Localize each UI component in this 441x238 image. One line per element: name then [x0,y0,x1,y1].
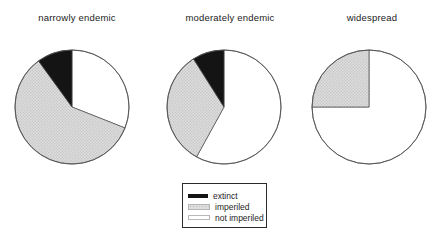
legend-swatch-extinct-icon [188,194,208,198]
legend-item-not-imperiled: not imperiled [188,212,266,223]
legend-swatch-imperiled-icon [188,204,210,210]
chart-title-narrowly-endemic: narrowly endemic [0,12,157,23]
chart-title-widespread: widespread [292,12,441,23]
legend-label-extinct: extinct [213,191,238,201]
chart-title-moderately-endemic: moderately endemic [150,12,310,23]
pie-narrowly-endemic [12,47,132,167]
pie-widespread [309,47,429,167]
pie-moderately-endemic [164,47,284,167]
legend-box: extinct imperiled not imperiled [182,183,267,228]
legend-item-imperiled: imperiled [188,201,266,212]
pie-chart-figure: narrowly endemic moderately endemic wide… [0,0,441,238]
legend-swatch-not-imperiled-icon [188,215,210,220]
legend-label-imperiled: imperiled [215,202,250,212]
legend-item-extinct: extinct [188,190,266,201]
pie-slice-imperiled [312,50,369,107]
legend-label-not-imperiled: not imperiled [215,213,264,223]
